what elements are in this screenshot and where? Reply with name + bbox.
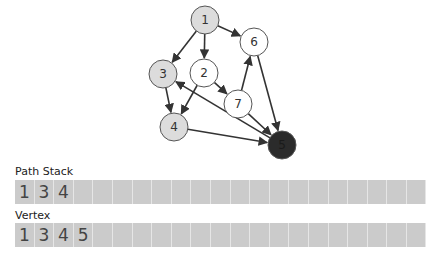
vertex-cell: 5 [74, 223, 94, 247]
path-stack-cell: 1 [15, 180, 35, 204]
node-2[interactable]: 2 [190, 59, 218, 87]
node-3[interactable]: 3 [149, 60, 177, 88]
edge-2-to-7 [214, 82, 227, 93]
path-stack-cell [270, 180, 290, 204]
vertex-cell [172, 223, 192, 247]
path-stack-cell [329, 180, 349, 204]
vertex-cell [348, 223, 368, 247]
path-stack-cell [407, 180, 427, 204]
vertex-cell [191, 223, 211, 247]
vertex-cell [270, 223, 290, 247]
path-stack-cell [231, 180, 251, 204]
vertex-cell [368, 223, 388, 247]
path-stack-cell [172, 180, 192, 204]
path-stack-cell [93, 180, 113, 204]
vertex-cell [289, 223, 309, 247]
path-stack-cell [348, 180, 368, 204]
path-stack-cell [191, 180, 211, 204]
path-stack-cell [289, 180, 309, 204]
path-stack-cell: 4 [54, 180, 74, 204]
node-label: 6 [250, 35, 258, 49]
path-stack-cell [152, 180, 172, 204]
vertex-row: 1345 [15, 223, 426, 247]
graph-diagram: 1632745 [0, 0, 447, 165]
node-label: 3 [159, 67, 167, 81]
edge-6-to-5 [258, 56, 278, 131]
node-1[interactable]: 1 [191, 6, 219, 34]
path-stack-cell [74, 180, 94, 204]
vertex-cell [133, 223, 153, 247]
vertex-cell [93, 223, 113, 247]
path-stack-cell [387, 180, 407, 204]
vertex-cell [231, 223, 251, 247]
vertex-cell [329, 223, 349, 247]
node-label: 7 [234, 97, 242, 111]
edge-4-to-5 [188, 129, 267, 142]
path-stack-cell [211, 180, 231, 204]
vertex-cell [407, 223, 427, 247]
path-stack-cell [250, 180, 270, 204]
node-6[interactable]: 6 [240, 28, 268, 56]
graph-nodes: 1632745 [149, 6, 296, 159]
vertex-cell: 1 [15, 223, 35, 247]
path-stack-cell [113, 180, 133, 204]
path-stack-cell [368, 180, 388, 204]
vertex-cell [211, 223, 231, 247]
path-stack-cell [309, 180, 329, 204]
node-7[interactable]: 7 [224, 90, 252, 118]
edge-7-to-6 [241, 57, 250, 91]
node-label: 1 [201, 13, 209, 27]
vertex-cell [152, 223, 172, 247]
edge-1-to-3 [172, 31, 196, 62]
node-label: 2 [200, 66, 208, 80]
node-5[interactable]: 5 [268, 131, 296, 159]
vertex-cell [387, 223, 407, 247]
vertex-label: Vertex [15, 209, 50, 222]
edge-1-to-6 [218, 26, 241, 36]
path-stack-label: Path Stack [15, 165, 73, 178]
node-label: 4 [170, 120, 178, 134]
vertex-cell [250, 223, 270, 247]
node-4[interactable]: 4 [160, 113, 188, 141]
path-stack-cell [133, 180, 153, 204]
path-stack-row: 134 [15, 180, 426, 204]
node-label: 5 [278, 138, 286, 152]
vertex-cell: 3 [35, 223, 55, 247]
vertex-cell [309, 223, 329, 247]
edge-3-to-4 [166, 88, 171, 113]
path-stack-cell: 3 [35, 180, 55, 204]
vertex-cell: 4 [54, 223, 74, 247]
vertex-cell [113, 223, 133, 247]
